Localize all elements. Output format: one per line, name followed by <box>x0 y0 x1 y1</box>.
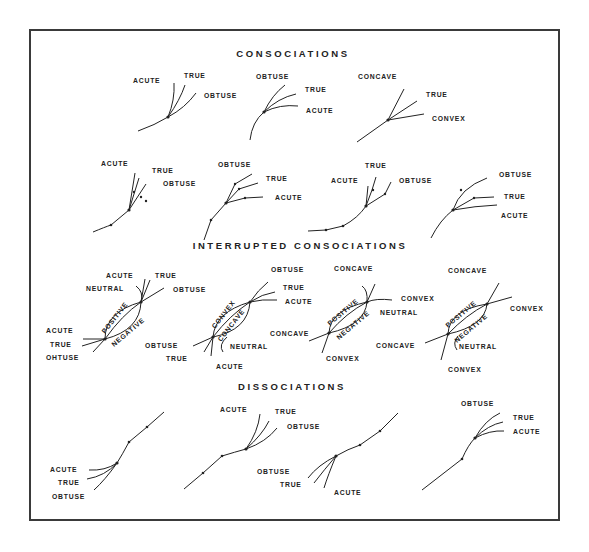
label-concave: CONCAVE <box>270 330 309 337</box>
consociation-diagram-4: ACUTE TRUE OBTUSE <box>93 160 196 232</box>
label-true: TRUE <box>266 175 288 182</box>
label-obtuse: OBTUSE <box>257 468 290 475</box>
interrupted-diagram-4: CONCAVE CONVEX POSITIVE NEGATIVE CONCAVE… <box>376 267 544 373</box>
label-obtuse: OBTUSE <box>271 266 304 273</box>
consociation-diagram-5: OBTUSE TRUE ACUTE <box>204 161 302 240</box>
interrupted-diagram-1: ACUTE TRUE NEUTRAL OBTUSE POSITIVE NEGAT… <box>46 272 206 361</box>
label-ohtuse: OHTUSE <box>46 354 79 361</box>
label-obtuse: OBTUSE <box>173 286 206 293</box>
interrupted-diagram-2: OBTUSE TRUE ACUTE CONVEX CONCAVE OBTUSE … <box>145 266 312 370</box>
label-true: TRUE <box>58 479 80 486</box>
label-true: TRUE <box>283 284 305 291</box>
label-obtuse: OBTUSE <box>163 180 196 187</box>
label-concave: CONCAVE <box>376 342 415 349</box>
label-convex: CONVEX <box>401 295 435 302</box>
label-true: TRUE <box>166 355 188 362</box>
label-acute: ACUTE <box>50 466 77 473</box>
label-acute: ACUTE <box>106 272 133 279</box>
section-title-consociations: CONSOCIATIONS <box>236 48 349 59</box>
section-title-interrupted: INTERRUPTED CONSOCIATIONS <box>193 240 408 251</box>
label-obtuse: OBTUSE <box>287 423 320 430</box>
label-neutral: NEUTRAL <box>86 285 124 292</box>
meander-diagram: CONSOCIATIONS INTERRUPTED CONSOCIATIONS … <box>0 0 589 552</box>
label-true: TRUE <box>184 72 206 79</box>
label-neutral: NEUTRAL <box>380 309 418 316</box>
label-true: TRUE <box>365 162 387 169</box>
label-obtuse: OBTUSE <box>256 73 289 80</box>
label-acute: ACUTE <box>275 194 302 201</box>
dissociation-diagram-2: ACUTE TRUE OBTUSE <box>184 406 320 489</box>
label-acute: ACUTE <box>46 327 73 334</box>
label-acute: ACUTE <box>285 298 312 305</box>
label-acute: ACUTE <box>101 160 128 167</box>
consociation-diagram-7: OBTUSE TRUE ACUTE <box>431 171 532 238</box>
label-true: TRUE <box>305 86 327 93</box>
label-concave: CONCAVE <box>334 265 373 272</box>
label-true: TRUE <box>50 341 72 348</box>
dissociation-diagram-3: OBTUSE TRUE ACUTE <box>257 413 398 496</box>
label-obtuse: OBTUSE <box>499 171 532 178</box>
consociation-diagram-2: OBTUSE TRUE ACUTE <box>250 73 333 140</box>
label-obtuse: OBTUSE <box>145 342 178 349</box>
label-acute: ACUTE <box>216 363 243 370</box>
label-neutral: NEUTRAL <box>459 343 497 350</box>
label-obtuse: OBTUSE <box>218 161 251 168</box>
label-concave: CONCAVE <box>358 73 397 80</box>
label-neutral: NEUTRAL <box>230 343 268 350</box>
label-true: TRUE <box>152 167 174 174</box>
label-convex: CONVEX <box>432 115 466 122</box>
dissociation-diagram-1: ACUTE TRUE OBTUSE <box>50 412 164 500</box>
dissociation-diagram-4: OBTUSE TRUE ACUTE <box>422 400 540 490</box>
label-true: TRUE <box>426 91 448 98</box>
label-obtuse: OBTUSE <box>399 177 432 184</box>
label-true: TRUE <box>275 408 297 415</box>
label-true: TRUE <box>513 414 535 421</box>
label-acute: ACUTE <box>306 107 333 114</box>
label-obtuse: OBTUSE <box>204 92 237 99</box>
label-true: TRUE <box>504 193 526 200</box>
consociation-diagram-1: ACUTE TRUE OBTUSE <box>133 72 237 131</box>
label-acute: ACUTE <box>331 177 358 184</box>
label-convex: CONVEX <box>510 305 544 312</box>
label-convex: CONVEX <box>326 355 360 362</box>
label-acute: ACUTE <box>133 77 160 84</box>
consociation-diagram-3: CONCAVE TRUE CONVEX <box>357 73 466 142</box>
label-acute: ACUTE <box>501 212 528 219</box>
label-acute: ACUTE <box>220 406 247 413</box>
label-acute: ACUTE <box>334 489 361 496</box>
label-acute: ACUTE <box>513 428 540 435</box>
section-title-dissociations: DISSOCIATIONS <box>238 381 346 392</box>
label-obtuse: OBTUSE <box>52 493 85 500</box>
label-concave: CONCAVE <box>448 267 487 274</box>
label-obtuse: OBTUSE <box>461 400 494 407</box>
label-convex: CONVEX <box>448 366 482 373</box>
label-true: TRUE <box>280 481 302 488</box>
label-true: TRUE <box>155 272 177 279</box>
consociation-diagram-6: TRUE ACUTE OBTUSE <box>308 162 432 231</box>
